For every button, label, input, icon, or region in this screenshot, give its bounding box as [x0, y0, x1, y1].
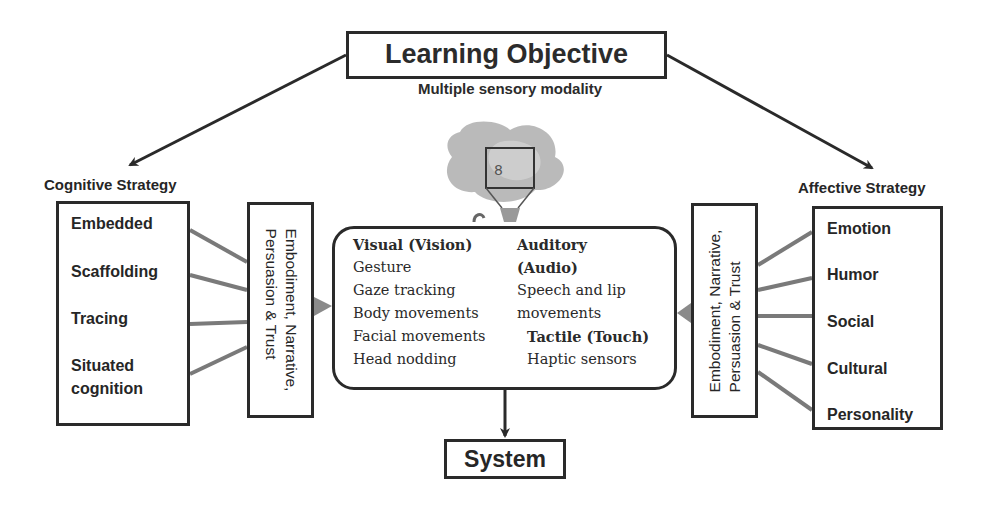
tactile-heading: Tactile (Touch): [527, 325, 649, 348]
system-box: System: [444, 439, 566, 479]
tactile-item: Haptic sensors: [527, 348, 637, 371]
modality-label: Multiple sensory modality: [380, 80, 640, 97]
learning-objective-label: Learning Objective: [349, 39, 664, 70]
arrow-to-cognitive: [130, 55, 346, 165]
robot-illustration: 8: [440, 112, 580, 224]
affective-embodiment-line2: Persuasion & Trust: [725, 229, 745, 392]
visual-heading: Visual (Vision): [353, 233, 472, 256]
affective-item-humor: Humor: [827, 264, 879, 286]
affective-fan-lines: [758, 232, 812, 410]
affective-strategy-title: Affective Strategy: [798, 179, 926, 196]
learning-objective-box: Learning Objective: [346, 31, 667, 79]
cognitive-embodiment-label: Embodiment, Narrative, Persuasion & Trus…: [261, 229, 301, 392]
affective-item-emotion: Emotion: [827, 218, 891, 240]
arrow-left-to-center: [314, 297, 332, 316]
auditory-heading: Auditory: [517, 233, 587, 256]
affective-item-social: Social: [827, 311, 874, 333]
affective-item-personality: Personality: [827, 404, 913, 426]
cognitive-embodiment-line1: Embodiment, Narrative,: [281, 229, 301, 392]
affective-strategy-box: Emotion Humor Social Cultural Personalit…: [812, 206, 943, 430]
visual-item: Head nodding: [353, 348, 457, 371]
cognitive-item-cognition: cognition: [71, 378, 143, 400]
cognitive-fan-lines: [190, 230, 247, 374]
arrow-to-affective: [667, 55, 872, 168]
affective-embodiment-label: Embodiment, Narrative, Persuasion & Trus…: [705, 229, 745, 392]
affective-embodiment-line1: Embodiment, Narrative,: [705, 229, 725, 392]
cognitive-embodiment-line2: Persuasion & Trust: [261, 229, 281, 392]
visual-item: Facial movements: [353, 325, 486, 348]
system-label: System: [447, 446, 563, 473]
cognitive-item-embedded: Embedded: [71, 213, 153, 235]
cognitive-strategy-title: Cognitive Strategy: [44, 176, 177, 193]
visual-item: Body movements: [353, 302, 479, 325]
auditory-item: movements: [517, 302, 601, 325]
auditory-item: Speech and lip: [517, 279, 626, 302]
cognitive-embodiment-box: Embodiment, Narrative, Persuasion & Trus…: [247, 202, 314, 418]
visual-item: Gaze tracking: [353, 279, 456, 302]
cognitive-strategy-box: Embedded Scaffolding Tracing Situated co…: [56, 201, 190, 426]
cognitive-item-situated: Situated: [71, 355, 134, 377]
arrow-right-to-center: [677, 303, 691, 323]
svg-text:8: 8: [494, 162, 503, 178]
affective-item-cultural: Cultural: [827, 358, 887, 380]
cognitive-item-tracing: Tracing: [71, 308, 128, 330]
auditory-heading-sub: (Audio): [517, 256, 578, 279]
sensory-modality-box: Visual (Vision) Gesture Gaze tracking Bo…: [332, 226, 677, 390]
cognitive-item-scaffolding: Scaffolding: [71, 261, 158, 283]
visual-item: Gesture: [353, 256, 411, 279]
affective-embodiment-box: Embodiment, Narrative, Persuasion & Trus…: [691, 203, 758, 418]
